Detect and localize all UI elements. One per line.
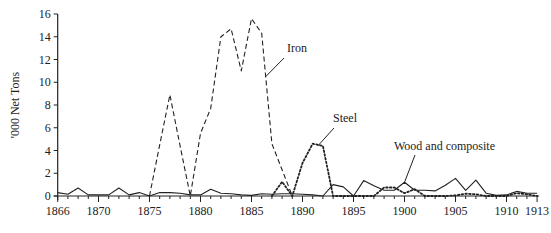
y-tick-label: 0: [45, 189, 51, 203]
leader-line-wood-and-composite: [405, 155, 416, 182]
x-tick-label: 1913: [525, 204, 549, 218]
y-tick-label: 4: [45, 144, 51, 158]
annotation-wood-and-composite: Wood and composite: [394, 139, 495, 153]
leader-line-iron: [266, 58, 284, 77]
y-tick-label: 16: [39, 7, 51, 21]
y-tick-label: 10: [39, 75, 51, 89]
x-tick-label: 1890: [291, 204, 315, 218]
x-tick-label: 1885: [240, 204, 264, 218]
y-axis-title: '000 Net Tons: [8, 71, 22, 138]
annotation-iron: Iron: [287, 41, 307, 55]
axes: 0246810121416186618701875188018851890189…: [39, 7, 549, 218]
y-tick-label: 14: [39, 30, 51, 44]
y-tick-label: 2: [45, 166, 51, 180]
x-tick-label: 1866: [46, 204, 70, 218]
series-line-iron: [150, 19, 293, 196]
x-tick-label: 1880: [189, 204, 213, 218]
x-tick-label: 1905: [444, 204, 468, 218]
x-tick-label: 1895: [342, 204, 366, 218]
x-tick-label: 1875: [138, 204, 162, 218]
y-tick-label: 6: [45, 121, 51, 135]
annotation-steel: Steel: [333, 111, 358, 125]
line-chart: 0246810121416186618701875188018851890189…: [0, 0, 551, 233]
leader-line-steel: [318, 128, 334, 146]
x-tick-label: 1910: [495, 204, 519, 218]
y-tick-label: 8: [45, 98, 51, 112]
x-tick-label: 1900: [393, 204, 417, 218]
y-tick-label: 12: [39, 53, 51, 67]
x-tick-label: 1870: [87, 204, 111, 218]
annotation-group: IronSteelWood and composite: [266, 41, 495, 182]
